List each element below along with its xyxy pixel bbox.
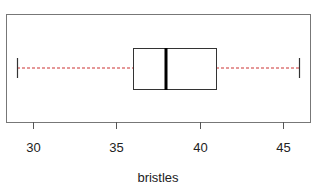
x-tick-label: 30 [26, 140, 40, 155]
iqr-box [134, 49, 217, 90]
x-tick-label: 45 [276, 140, 290, 155]
x-tick-label: 35 [109, 140, 123, 155]
boxplot-chart: 30 35 40 45 bristles [0, 0, 318, 192]
x-tick-label: 40 [193, 140, 207, 155]
x-axis-label: bristles [137, 170, 179, 185]
